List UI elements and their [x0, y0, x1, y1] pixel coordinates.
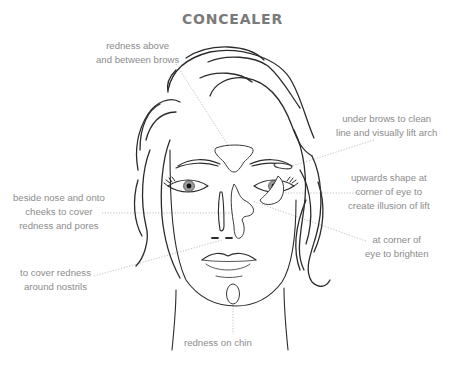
lower-lip [206, 264, 250, 270]
label-line: redness and pores [13, 219, 105, 233]
label-line: to cover redness [20, 266, 91, 280]
label-line: under brows to clean [336, 112, 437, 126]
label-line: around nostrils [20, 280, 91, 294]
label-line: at corner of [365, 233, 428, 247]
label-line: and between brows [96, 53, 179, 67]
label-line: create illusion of lift [348, 199, 430, 213]
concealer-under-brow [274, 162, 293, 170]
label-eye-corner-upwards: upwards shape at corner of eye to create… [348, 171, 430, 213]
label-line: eye to brighten [365, 247, 428, 261]
label-chin: redness on chin [184, 336, 252, 350]
leader-line-nostrils [94, 240, 222, 276]
concealer-areas [215, 145, 292, 304]
label-beside-nose: beside nose and onto cheeks to cover red… [13, 191, 105, 233]
label-line: redness on chin [184, 336, 252, 350]
label-under-brows: under brows to clean line and visually l… [336, 112, 437, 140]
concealer-beside-nose [231, 184, 253, 238]
lip-line [202, 260, 256, 262]
label-nostrils: to cover redness around nostrils [20, 266, 91, 294]
concealer-between-brows [215, 145, 253, 172]
label-line: upwards shape at [348, 171, 430, 185]
upper-lip [202, 253, 256, 260]
label-line: redness above [96, 39, 179, 53]
label-brows-between: redness above and between brows [96, 39, 179, 67]
label-line: cheeks to cover [13, 205, 105, 219]
label-line: beside nose and onto [13, 191, 105, 205]
label-eye-corner-brighten: at corner of eye to brighten [365, 233, 428, 261]
label-line: line and visually lift arch [336, 126, 437, 140]
concealer-chin [227, 284, 240, 304]
label-line: corner of eye to [348, 185, 430, 199]
nose-bridge [219, 192, 225, 231]
lip-shadow [216, 276, 242, 278]
